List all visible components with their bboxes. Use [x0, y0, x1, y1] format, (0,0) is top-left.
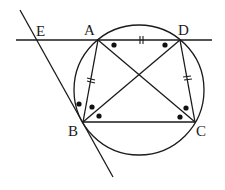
diagram-canvas: E A D B C	[0, 0, 225, 190]
angle-dot-adb	[162, 42, 167, 47]
geometry-diagram: E A D B C	[0, 0, 225, 190]
angle-dot-abd	[89, 104, 94, 109]
diagonal-ac	[98, 40, 195, 122]
diagonal-bd	[83, 40, 180, 122]
angle-dot-acd	[183, 105, 188, 110]
label-e: E	[36, 23, 45, 39]
angle-dot-eba	[76, 101, 81, 106]
tangent-line-eb	[20, 10, 113, 177]
angle-dot-dac	[111, 42, 116, 47]
circumcircle	[74, 25, 204, 155]
label-d: D	[178, 22, 189, 38]
segment-ab	[83, 40, 98, 122]
label-b: B	[68, 123, 78, 139]
angle-dot-dbc	[96, 113, 101, 118]
angle-dot-acb	[177, 114, 182, 119]
label-a: A	[84, 22, 95, 38]
label-c: C	[196, 123, 206, 139]
